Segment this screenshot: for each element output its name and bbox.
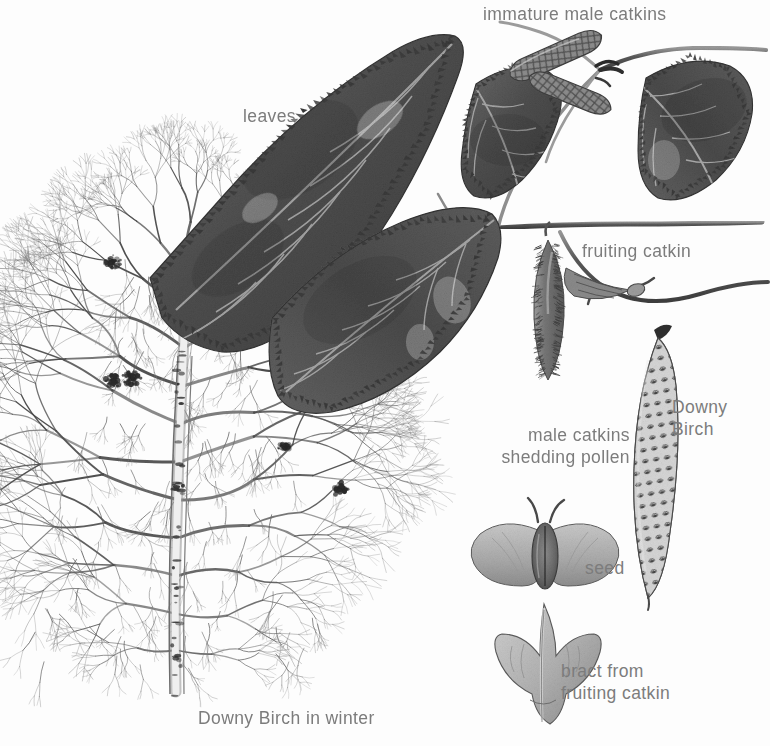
- label-seed: seed: [585, 557, 625, 579]
- botanical-plate: immature male catkins leaves fruiting ca…: [0, 0, 770, 746]
- label-immature-male-catkins: immature male catkins: [483, 3, 666, 25]
- label-downy-birch-in-winter: Downy Birch in winter: [198, 707, 375, 729]
- label-downy-birch: Downy Birch: [672, 396, 728, 441]
- label-fruiting-catkin: fruiting catkin: [582, 240, 691, 262]
- label-bract-from-fruiting-catkin: bract from fruiting catkin: [561, 660, 670, 705]
- label-male-catkins-shedding-pollen: male catkins shedding pollen: [384, 424, 630, 469]
- illustration-canvas: [0, 0, 770, 746]
- label-leaves: leaves: [243, 105, 296, 127]
